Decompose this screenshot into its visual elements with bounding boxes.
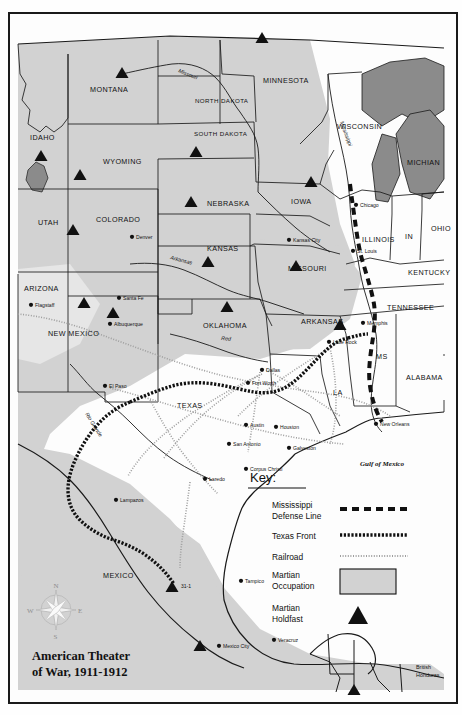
city-label-laredo: Laredo: [209, 476, 225, 482]
city-dot-denver: [130, 235, 134, 239]
state-label-wyoming: WYOMING: [103, 157, 142, 166]
city-label-austin: Austin: [250, 422, 264, 428]
city-dot-fort-worth: [246, 381, 250, 385]
city-dot-galveston: [287, 446, 291, 450]
city-label-galveston: Galveston: [293, 445, 316, 451]
city-label-dallas: Dallas: [266, 367, 281, 373]
map-frame: 31-1 MONTANAIDAHOWYOMINGUTAHCOLORADONORT…: [8, 12, 458, 704]
state-label-idaho: IDAHO: [30, 133, 55, 142]
city-label-new-orleans: New Orleans: [380, 421, 410, 427]
city-dot-tampico: [239, 579, 243, 583]
city-dot-lampazos: [114, 498, 118, 502]
city-label-st-louis: St. Louis: [357, 248, 377, 254]
state-label-oklahoma: OKLAHOMA: [203, 321, 247, 330]
city-dot-little-rock: [327, 340, 331, 344]
compass-south: S: [54, 633, 58, 641]
state-label-mississippi-state: MS: [376, 352, 388, 361]
sea-label-gulf-of-mexico: Gulf of Mexico: [360, 460, 404, 468]
holdfast-mexico-31-1-label: 31-1: [181, 583, 191, 589]
city-dot-new-orleans: [374, 422, 378, 426]
key-label-texas-front: Texas Front: [272, 531, 316, 541]
compass-west: W: [27, 607, 34, 615]
state-label-north-dakota: NORTH DAKOTA: [195, 97, 249, 104]
state-label-colorado: COLORADO: [96, 215, 140, 224]
city-label-lampazos: Lampazos: [120, 497, 144, 503]
state-label-alabama: ALABAMA: [406, 373, 443, 382]
key-label-martian-occupation-2: Occupation: [272, 581, 315, 591]
state-label-arizona: ARIZONA: [24, 284, 59, 293]
map-title-line-1: American Theater: [32, 649, 130, 663]
state-label-minnesota: MINNESOTA: [263, 76, 309, 85]
key-label-mississippi-defense-line-2: Defense Line: [272, 511, 322, 521]
city-dot-el-paso: [103, 384, 107, 388]
state-label-mexico: MEXICO: [103, 571, 134, 580]
city-dot-corpus-christi: [244, 467, 248, 471]
key-label-mississippi-defense-line-1: Mississippi: [272, 500, 313, 510]
key-label-martian-holdfast-1: Martian: [272, 603, 300, 613]
city-label-chicago: Chicago: [360, 202, 379, 208]
state-label-ohio: OHIO: [431, 224, 451, 233]
state-label-tennessee: TENNESSEE: [387, 303, 434, 312]
state-label-new-mexico: NEW MEXICO: [48, 329, 99, 338]
state-label-arkansas: ARKANSAS: [301, 317, 343, 326]
city-label-houston: Houston: [280, 424, 299, 430]
state-label-nebraska: NEBRASKA: [207, 199, 249, 208]
country-label-british-honduras-2: Honduras: [416, 672, 440, 678]
city-label-memphis: Memphis: [367, 320, 388, 326]
city-label-veracruz: Veracruz: [278, 637, 299, 643]
state-label-missouri: MISSOURI: [288, 264, 327, 273]
river-label-red-river: Red: [221, 335, 232, 342]
city-label-little-rock: Little Rock: [333, 339, 357, 345]
city-dot-mexico-city: [217, 644, 221, 648]
city-dot-chicago: [354, 203, 358, 207]
city-dot-flagstaff: [29, 303, 33, 307]
state-label-iowa: IOWA: [291, 197, 312, 206]
key-label-railroad: Railroad: [272, 552, 304, 562]
city-dot-santa-fe: [117, 296, 121, 300]
key-symbol-martian-occupation: [340, 569, 396, 594]
state-label-montana: MONTANA: [90, 85, 128, 94]
city-label-tampico: Tampico: [245, 578, 264, 584]
state-label-south-dakota: SOUTH DAKOTA: [194, 130, 248, 137]
compass-east: E: [78, 607, 82, 615]
city-dot-austin: [244, 423, 248, 427]
city-dot-veracruz: [272, 638, 276, 642]
city-label-el-paso: El Paso: [109, 383, 127, 389]
city-dot-laredo: [203, 477, 207, 481]
country-label-british-honduras-1: British: [416, 664, 431, 670]
city-label-mexico-city: Mexico City: [223, 643, 250, 649]
state-label-illinois: ILLINOIS: [362, 235, 395, 244]
state-label-kentucky: KENTUCKY: [408, 268, 450, 277]
key-label-martian-occupation-1: Martian: [272, 570, 300, 580]
key-heading: Key:: [250, 470, 276, 485]
city-dot-memphis: [361, 321, 365, 325]
state-label-utah: UTAH: [38, 218, 59, 227]
city-dot-houston: [274, 425, 278, 429]
state-label-louisiana: LA: [333, 388, 343, 397]
city-dot-albuquerque: [108, 322, 112, 326]
city-label-fort-worth: Fort Worth: [252, 380, 276, 386]
city-dot-st-louis: [351, 249, 355, 253]
city-label-santa-fe: Santa Fe: [123, 295, 144, 301]
city-label-flagstaff: Flagstaff: [35, 302, 55, 308]
city-label-denver: Denver: [136, 234, 153, 240]
city-dot-dallas: [260, 368, 264, 372]
city-label-albuquerque: Albuquerque: [114, 321, 143, 327]
state-label-kansas: KANSAS: [207, 244, 239, 253]
city-label-kansas-city: Kansas City: [293, 237, 321, 243]
city-label-san-antonio: San Antonio: [233, 441, 261, 447]
key-label-martian-holdfast-2: Holdfast: [272, 614, 303, 624]
american-theater-of-war-map: 31-1 MONTANAIDAHOWYOMINGUTAHCOLORADONORT…: [10, 14, 452, 698]
state-label-indiana: IN: [405, 232, 413, 241]
map-page: 31-1 MONTANAIDAHOWYOMINGUTAHCOLORADONORT…: [0, 0, 462, 715]
compass-north: N: [54, 582, 59, 590]
sea-labels-layer: Gulf of Mexico: [360, 460, 404, 468]
city-dot-san-antonio: [227, 442, 231, 446]
state-label-michigan: MICHIAN: [407, 158, 440, 167]
map-title-line-2: of War, 1911-1912: [32, 665, 128, 679]
state-label-texas: TEXAS: [177, 401, 203, 410]
city-dot-kansas-city: [287, 238, 291, 242]
